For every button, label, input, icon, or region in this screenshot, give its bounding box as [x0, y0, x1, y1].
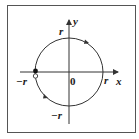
filled-point	[33, 69, 38, 74]
frame-border	[8, 6, 136, 133]
y-axis-label: y	[71, 15, 78, 27]
origin-label: 0	[70, 75, 76, 87]
open-point	[33, 74, 37, 78]
y-top-label: r	[59, 25, 64, 37]
x-left-label: −r	[16, 75, 28, 87]
x-right-label: r	[104, 74, 109, 86]
y-bottom-label: −r	[51, 109, 63, 121]
arrow-icon-upper	[84, 40, 89, 45]
x-axis-label: x	[115, 75, 122, 87]
circle-diagram: y r −r 0 r x −r	[0, 0, 139, 139]
